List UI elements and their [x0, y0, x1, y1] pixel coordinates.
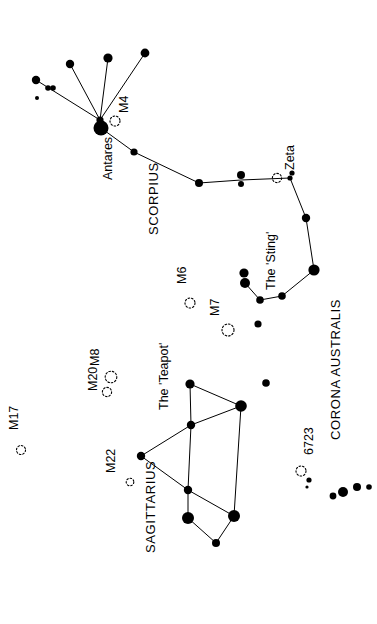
- star-marker: [185, 379, 194, 388]
- deep-sky-object-marker: [105, 371, 117, 383]
- star-marker: [35, 96, 39, 100]
- deep-sky-object-marker: [110, 116, 120, 126]
- deep-sky-object-marker: [17, 446, 26, 455]
- star-marker: [262, 379, 270, 387]
- constellation-line: [190, 384, 191, 425]
- star-marker: [256, 296, 264, 304]
- star-marker: [187, 421, 195, 429]
- sky-map-canvas: SCORPIUSSAGITTARIUSCORONA AUSTRALISThe '…: [0, 0, 377, 624]
- star-marker: [50, 85, 56, 91]
- star-marker: [32, 76, 40, 84]
- star-marker: [330, 493, 337, 500]
- star-marker: [278, 292, 286, 300]
- constellation-line: [290, 178, 306, 218]
- star-marker: [195, 179, 203, 187]
- star-marker: [302, 214, 310, 222]
- dso-label-m6: M6: [175, 267, 189, 284]
- star-marker: [353, 483, 361, 491]
- star-label-zeta: Zeta: [283, 145, 297, 170]
- star-marker: [238, 181, 244, 187]
- star-marker: [184, 486, 192, 494]
- dso-label-m17: M17: [7, 406, 21, 430]
- deep-sky-object-marker: [185, 298, 195, 308]
- star-marker: [212, 539, 220, 547]
- deep-sky-object-marker: [222, 324, 234, 336]
- star-marker: [237, 171, 245, 179]
- constellation-line: [234, 406, 241, 516]
- constellation-line: [241, 178, 290, 180]
- dso-label-m20: M20: [86, 367, 100, 391]
- asterism-label: The 'Sting': [264, 232, 278, 290]
- constellation-line: [199, 180, 241, 183]
- star-marker: [141, 49, 150, 58]
- star-label-antares: Antares: [101, 137, 115, 180]
- constellation-line: [188, 490, 234, 516]
- star-chart: SCORPIUSSAGITTARIUSCORONA AUSTRALISThe '…: [0, 0, 377, 624]
- constellation-line: [282, 270, 314, 296]
- star-marker: [289, 170, 294, 175]
- star-marker: [103, 53, 112, 62]
- deep-sky-object-marker: [126, 478, 134, 486]
- star-marker: [130, 148, 137, 155]
- star-marker: [240, 278, 250, 288]
- constellation-line: [134, 152, 199, 183]
- star-marker: [45, 85, 51, 91]
- star-marker: [254, 320, 261, 327]
- dso-label-m8: M8: [88, 349, 102, 366]
- deep-sky-object-marker: [102, 387, 111, 396]
- constellation-line: [141, 425, 191, 456]
- star-marker: [239, 268, 248, 277]
- star-marker: [137, 452, 145, 460]
- constellation-line: [190, 384, 241, 406]
- stars-group: [32, 49, 372, 547]
- constellation-line: [191, 406, 241, 425]
- constellation-label-scorpius: SCORPIUS: [146, 162, 161, 235]
- star-marker: [182, 512, 194, 524]
- labels-group: SCORPIUSSAGITTARIUSCORONA AUSTRALISThe '…: [7, 96, 343, 553]
- star-marker: [287, 175, 292, 180]
- star-marker: [306, 477, 311, 482]
- star-marker: [305, 485, 308, 488]
- star-marker: [94, 121, 109, 136]
- star-marker: [66, 60, 74, 68]
- star-marker: [235, 400, 247, 412]
- dso-label-m7: M7: [208, 299, 222, 316]
- dso-label-m4: M4: [117, 96, 131, 113]
- constellation-line: [70, 64, 100, 120]
- dso-label-6723: 6723: [302, 427, 316, 455]
- dso-label-m22: M22: [104, 449, 118, 473]
- constellation-lines-group: [36, 53, 314, 543]
- constellation-label-corona-australis: CORONA AUSTRALIS: [328, 299, 343, 440]
- constellation-label-sagittarius: SAGITTARIUS: [143, 461, 158, 553]
- star-marker: [338, 487, 348, 497]
- constellation-line: [188, 425, 191, 490]
- star-marker: [228, 510, 240, 522]
- asterism-label: The 'Teapot': [157, 343, 171, 410]
- star-marker: [308, 264, 319, 275]
- deep-sky-object-marker: [296, 466, 306, 476]
- star-marker: [366, 484, 372, 490]
- constellation-line: [306, 218, 314, 270]
- constellation-line: [36, 80, 100, 120]
